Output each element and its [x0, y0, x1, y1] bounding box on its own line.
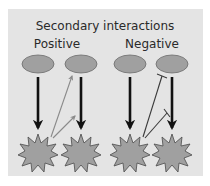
inhibition-line-icon — [145, 113, 167, 138]
group-label-positive: Positive — [34, 37, 80, 51]
starburst-node — [152, 134, 192, 172]
ellipse-node — [114, 55, 146, 73]
target-nodes — [18, 134, 192, 172]
starburst-node — [110, 134, 150, 172]
ellipse-node — [22, 55, 54, 73]
diagram-title: Secondary interactions — [36, 19, 175, 33]
positive-secondary-arrows — [51, 76, 75, 138]
activation-arrow-icon — [53, 116, 75, 138]
group-label-negative: Negative — [125, 37, 179, 51]
activation-arrow-icon — [51, 76, 72, 137]
negative-secondary-lines — [143, 74, 170, 138]
regulator-nodes — [22, 55, 188, 73]
inhibition-line-icon — [143, 76, 162, 137]
starburst-node — [18, 134, 58, 172]
interaction-diagram: Secondary interactions Positive Negative — [0, 0, 210, 186]
ellipse-node — [156, 55, 188, 73]
primary-arrows — [38, 77, 172, 128]
starburst-node — [61, 134, 101, 172]
ellipse-node — [65, 55, 97, 73]
